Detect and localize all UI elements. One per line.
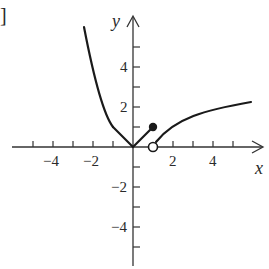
open-point-icon xyxy=(149,143,158,152)
left-curve xyxy=(84,27,113,127)
x-axis-label: x xyxy=(254,158,263,178)
y-tick-label: −4 xyxy=(111,219,127,235)
x-tick-label: −4 xyxy=(43,153,59,169)
x-axis: −4 −2 2 4 x xyxy=(12,141,263,178)
closed-point-icon xyxy=(149,123,157,131)
function-graph: ] −4 −2 2 4 x xyxy=(0,0,269,269)
right-curve xyxy=(156,102,251,142)
function-curves xyxy=(84,27,251,147)
y-axis-label: y xyxy=(110,11,120,31)
x-tick-label: −2 xyxy=(83,153,99,169)
x-tick-label: 2 xyxy=(169,153,177,169)
x-tick-label: 4 xyxy=(209,153,217,169)
y-tick-label: 4 xyxy=(120,59,128,75)
y-tick-label: 2 xyxy=(120,99,128,115)
bracket-text: ] xyxy=(0,4,7,26)
y-tick-label: −2 xyxy=(111,179,127,195)
